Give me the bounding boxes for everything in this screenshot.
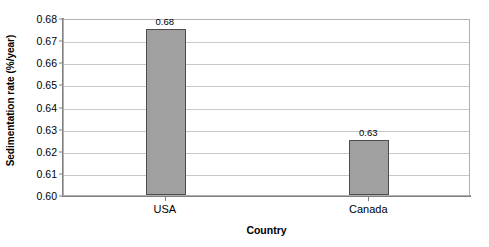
y-axis-tick-labels: 0.680.670.660.650.640.630.620.610.60 xyxy=(22,19,60,196)
gridline xyxy=(64,86,469,87)
y-axis-title: Sedimentation rate (%/year) xyxy=(0,0,22,200)
x-axis-title: Country xyxy=(63,224,470,236)
bar-chart: Sedimentation rate (%/year) 0.680.670.66… xyxy=(0,0,489,247)
y-axis-tick-label: 0.66 xyxy=(37,57,57,69)
y-axis-tick-label: 0.68 xyxy=(37,13,57,25)
gridline xyxy=(64,42,469,43)
gridline xyxy=(64,175,469,176)
x-axis-tick-mark xyxy=(165,196,166,201)
y-axis-tick-label: 0.60 xyxy=(37,190,57,202)
gridline xyxy=(64,109,469,110)
gridline xyxy=(64,153,469,154)
y-axis-tick-label: 0.65 xyxy=(37,79,57,91)
y-axis-tick-label: 0.64 xyxy=(37,102,57,114)
x-axis-category-label: Canada xyxy=(349,203,388,215)
gridline xyxy=(64,64,469,65)
bar xyxy=(349,140,389,195)
x-axis-category-label: USA xyxy=(153,203,176,215)
y-axis-tick-label: 0.67 xyxy=(37,35,57,47)
y-axis-tick-label: 0.62 xyxy=(37,146,57,158)
y-axis-tick-label: 0.63 xyxy=(37,124,57,136)
plot-area xyxy=(63,19,470,196)
bar-value-label: 0.63 xyxy=(359,127,378,138)
y-axis-title-text: Sedimentation rate (%/year) xyxy=(6,34,17,166)
x-axis-tick-mark xyxy=(368,196,369,201)
y-axis-tick-label: 0.61 xyxy=(37,168,57,180)
bar xyxy=(146,29,186,195)
bar-value-label: 0.68 xyxy=(156,16,175,27)
gridline xyxy=(64,131,469,132)
